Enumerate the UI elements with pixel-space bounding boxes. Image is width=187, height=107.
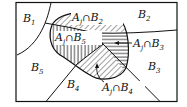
boundary-b1 bbox=[17, 3, 51, 56]
label-aj-b5: Aj∩B5 bbox=[54, 31, 102, 46]
label-b4: B4 bbox=[66, 78, 80, 93]
label-b2: B2 bbox=[137, 8, 151, 23]
partition-diagram: B1 B2 B3 B4 B5 Aj∩B2 Aj∩B5 Aj∩B3 Aj∩B4 bbox=[0, 0, 187, 107]
label-b1: B1 bbox=[22, 12, 36, 27]
label-b5: B5 bbox=[30, 61, 44, 76]
label-aj-b4: Aj∩B4 bbox=[101, 81, 145, 96]
label-aj-b3: Aj∩B3 bbox=[132, 37, 176, 52]
label-aj-b2: Aj∩B2 bbox=[71, 11, 123, 26]
label-b3: B3 bbox=[147, 60, 161, 75]
